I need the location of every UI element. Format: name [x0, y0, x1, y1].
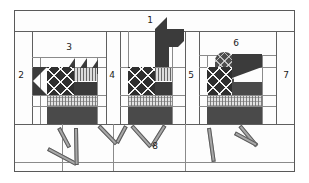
bird1-lower-body	[47, 107, 97, 124]
bird2-wing-solid	[155, 82, 172, 95]
bird1-wing-stripe	[74, 68, 97, 81]
bird2-neck	[155, 47, 169, 67]
callout-1: 1	[144, 16, 156, 25]
seam-line-bottom-2	[113, 124, 114, 171]
bird2-beak	[155, 17, 167, 29]
bird3-beak-clip	[232, 67, 262, 78]
bird2-beak-clip	[155, 17, 167, 29]
callout-3: 3	[63, 43, 75, 52]
seam-line-sashing-5-right	[199, 31, 200, 124]
bird3-body-x-print	[207, 67, 232, 95]
seam-line-bottom-3	[185, 124, 186, 171]
callout-6: 6	[230, 39, 242, 48]
bird1-head-clip	[33, 67, 47, 81]
bird3-head	[232, 54, 262, 67]
bird2-head-notch-clip	[176, 40, 185, 49]
bird2-head-notch	[176, 40, 185, 49]
seam-line-sashing-4-right	[120, 31, 121, 124]
bird2-breast-plaid	[128, 96, 172, 106]
bird1-leg-right	[74, 128, 79, 165]
bird3-breast-plaid	[207, 96, 262, 106]
callout-8: 8	[149, 142, 161, 151]
callout-2: 2	[15, 71, 27, 80]
bird2-body-x-print	[128, 67, 155, 95]
bird2-lower-body	[128, 107, 172, 124]
bird2-wing-stripe	[155, 68, 172, 81]
callout-5: 5	[185, 71, 197, 80]
bird3-wing-solid	[232, 82, 262, 95]
bird1-head	[33, 67, 47, 81]
callout-7: 7	[280, 71, 292, 80]
bird1-beak	[33, 81, 47, 95]
bird3-beak	[232, 67, 262, 78]
seam-line-bottom-strip	[15, 124, 294, 125]
bird1-wing-solid	[74, 82, 97, 95]
bird1-beak-clip	[33, 81, 47, 95]
bird1-breast-plaid	[47, 96, 97, 106]
callout-4: 4	[106, 71, 118, 80]
seam-line-right-border	[276, 31, 277, 124]
bird3-lower-body	[207, 107, 262, 124]
seam-line-bottom-edge	[15, 162, 294, 163]
diagram-canvas: 1 2 3 4 5 6 7 8	[0, 0, 309, 183]
bird1-body-x-print	[47, 67, 74, 95]
seam-line-b3-right	[262, 55, 263, 124]
